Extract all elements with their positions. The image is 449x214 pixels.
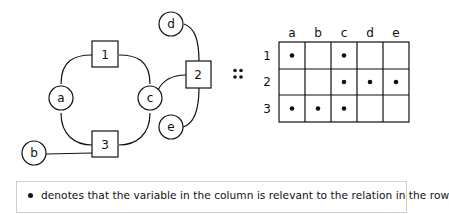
matrix-col-header-a: a	[288, 26, 295, 40]
edge-3-a	[61, 113, 92, 145]
variable-label-d: d	[167, 17, 175, 31]
equivalence-symbol-icon	[233, 69, 243, 79]
variable-label-c: c	[147, 91, 154, 105]
matrix-row-header-1: 1	[263, 49, 271, 63]
relevance-dot-icon	[316, 106, 321, 111]
relevance-dot-icon	[342, 80, 347, 85]
relation-label-1: 1	[101, 48, 109, 62]
edge-3-c	[119, 113, 150, 145]
matrix-col-header-b: b	[314, 26, 322, 40]
relevance-dot-icon	[394, 80, 399, 85]
edge-2-d	[184, 24, 199, 62]
relevance-dot-icon	[368, 80, 373, 85]
relevance-dot-icon	[290, 106, 295, 111]
variable-label-a: a	[57, 91, 64, 105]
edge-1-a	[61, 55, 92, 84]
relevance-dot-icon	[290, 53, 295, 58]
matrix-col-header-c: c	[341, 26, 348, 40]
matrix-col-header-e: e	[392, 26, 399, 40]
legend: denotes that the variable in the column …	[24, 189, 449, 201]
matrix-row-header-2: 2	[263, 75, 271, 89]
matrix-dots	[290, 53, 399, 111]
edge-1-c	[119, 55, 150, 84]
variable-label-b: b	[30, 146, 38, 160]
relevance-dot-icon	[342, 106, 347, 111]
relation-label-2: 2	[194, 68, 202, 82]
edge-2-c	[158, 75, 186, 90]
relation-label-3: 3	[101, 138, 109, 152]
legend-text: denotes that the variable in the column …	[41, 189, 449, 201]
relevance-dot-icon	[342, 53, 347, 58]
edge-3-b	[46, 153, 92, 154]
edge-2-e	[183, 88, 199, 127]
bullet-dot-icon	[28, 193, 33, 198]
matrix-row-header-3: 3	[263, 102, 271, 116]
variable-label-e: e	[167, 120, 174, 134]
matrix-col-header-d: d	[366, 26, 374, 40]
